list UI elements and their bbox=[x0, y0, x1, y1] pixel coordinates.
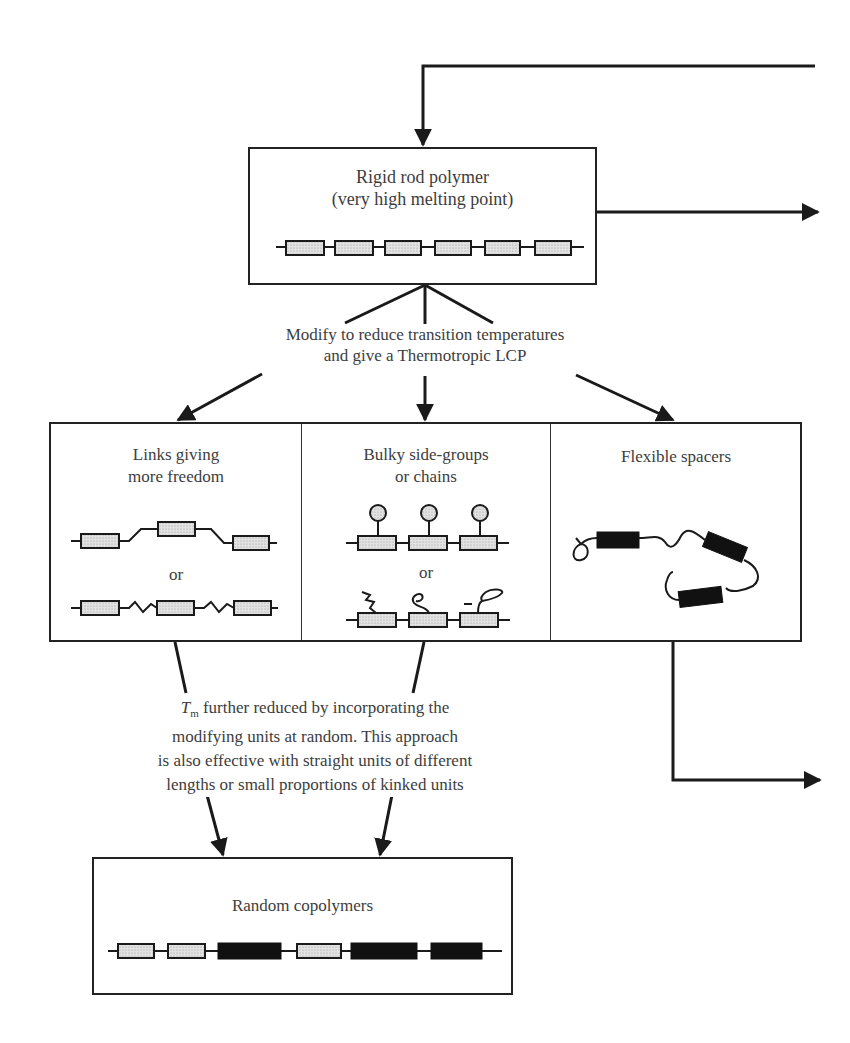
random-copolymers-box: Random copolymers bbox=[92, 857, 513, 995]
zigzag-link-chain-icon bbox=[51, 596, 301, 626]
random-caption-line3: is also effective with straight units of… bbox=[95, 749, 535, 773]
option-links: Links giving more freedom or bbox=[51, 424, 301, 640]
kinked-link-chain-icon bbox=[51, 519, 301, 559]
rigid-rod-box: Rigid rod polymer (very high melting poi… bbox=[248, 147, 597, 285]
modify-caption-line2: and give a Thermotropic LCP bbox=[225, 345, 625, 366]
option-links-title-2: more freedom bbox=[51, 466, 301, 487]
option-links-title-1: Links giving bbox=[51, 444, 301, 465]
side-group-chain-icon bbox=[302, 499, 550, 559]
modification-options-box: Links giving more freedom or Bulky side-… bbox=[49, 422, 802, 642]
option-flexible: Flexible spacers bbox=[551, 424, 801, 640]
random-caption-line2: modifying units at random. This approach bbox=[95, 725, 535, 749]
feedback-arrow-top bbox=[423, 66, 815, 145]
output-arrow-flexible bbox=[673, 642, 820, 780]
converge-arrows-bottom bbox=[207, 795, 392, 855]
option-bulky-or: or bbox=[302, 562, 550, 583]
branch-lines-top bbox=[345, 285, 493, 325]
option-bulky-title-1: Bulky side-groups bbox=[302, 444, 550, 465]
random-caption-line1: Tm further reduced by incorporating the bbox=[95, 696, 535, 725]
flexible-spacer-chain-icon bbox=[551, 514, 801, 634]
rigid-rod-subtitle: (very high melting point) bbox=[250, 189, 595, 210]
random-caption: Tm further reduced by incorporating the … bbox=[95, 696, 535, 797]
option-bulky-title-2: or chains bbox=[302, 466, 550, 487]
branch-arrows-middle bbox=[178, 374, 673, 420]
random-caption-line4: lengths or small proportions of kinked u… bbox=[95, 773, 535, 797]
tm-subscript: m bbox=[190, 707, 199, 719]
modify-caption: Modify to reduce transition temperatures… bbox=[225, 324, 625, 366]
option-links-or: or bbox=[51, 564, 301, 585]
random-copolymer-chain-icon bbox=[92, 937, 513, 967]
side-chain-chain-icon bbox=[302, 586, 550, 636]
random-copolymers-title: Random copolymers bbox=[94, 895, 511, 916]
rigid-rod-title: Rigid rod polymer bbox=[250, 167, 595, 188]
option-flexible-title: Flexible spacers bbox=[551, 446, 801, 467]
rigid-rod-chain-icon bbox=[248, 235, 597, 265]
modify-caption-line1: Modify to reduce transition temperatures bbox=[225, 324, 625, 345]
random-caption-line1-rest: further reduced by incorporating the bbox=[199, 698, 450, 717]
converge-lines bbox=[175, 642, 424, 693]
option-bulky: Bulky side-groups or chains or bbox=[302, 424, 550, 640]
tm-symbol: T bbox=[181, 698, 190, 717]
